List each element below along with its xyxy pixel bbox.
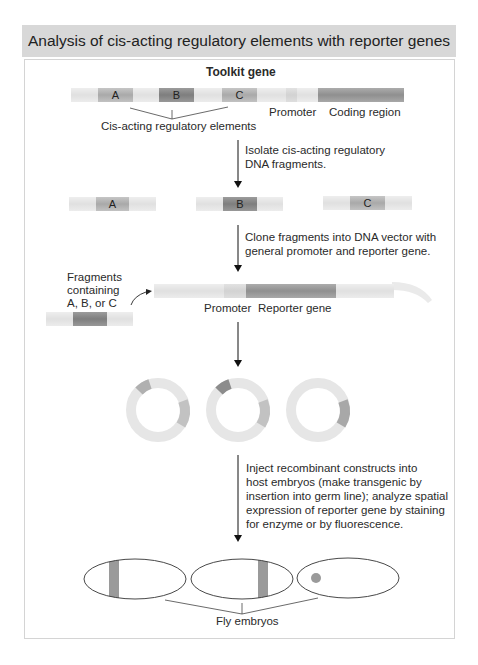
plasmid-c (291, 383, 345, 437)
fragments-label-line-2: containing (67, 284, 119, 297)
step-3-line-2: host embryos (make transgenic by (246, 476, 422, 489)
step-1-line-2: DNA fragments. (245, 158, 326, 171)
step-3-line-4: expression of reporter gene by staining (246, 504, 445, 517)
step-3-line-3: insertion into germ line); analyze spati… (246, 490, 448, 503)
embryo-1 (84, 555, 186, 605)
step-3-line-5: for enzyme or by fluorescence. (246, 518, 403, 531)
embryo-3 (297, 558, 399, 598)
reporter-gene-segment (246, 284, 336, 298)
vector-promoter-label: Promoter (204, 302, 251, 315)
fragments-label-line-3: A, B, or C (67, 297, 117, 310)
reporter-gene-label: Reporter gene (258, 302, 332, 315)
vector-promoter (224, 284, 246, 298)
step-2-line-2: general promoter and reporter gene. (245, 245, 430, 258)
connector-lines (0, 0, 478, 665)
step-2-line-1: Clone fragments into DNA vector with (245, 231, 436, 244)
step-3-line-1: Inject recombinant constructs into (246, 462, 417, 475)
fly-embryos-label: Fly embryos (216, 615, 279, 628)
fragments-label-line-1: Fragments (67, 271, 122, 284)
plasmid-b (211, 383, 265, 437)
step-1-line-1: Isolate cis-acting regulatory (245, 144, 385, 157)
plasmid-a (131, 383, 185, 437)
embryo-2 (191, 555, 293, 605)
